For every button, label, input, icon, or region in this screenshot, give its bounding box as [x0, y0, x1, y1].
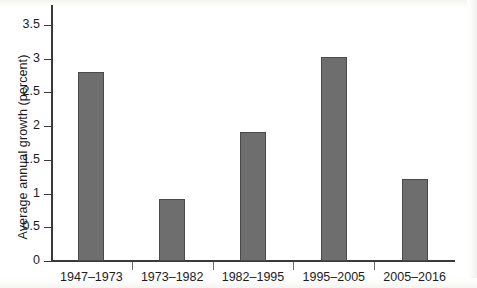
y-axis-tick [44, 92, 52, 93]
page-scan-edge-right [467, 0, 477, 288]
y-axis-tick [44, 261, 52, 262]
bar [321, 57, 347, 261]
x-axis-tick [132, 262, 133, 270]
bar [159, 199, 185, 261]
y-axis-tick [44, 25, 52, 26]
x-axis-tick [374, 262, 375, 270]
y-axis-tick-label: 1.5 [0, 152, 40, 166]
bar-chart-figure: Average annual growth (percent) 00.511.5… [0, 0, 477, 288]
y-axis-tick-label: 3 [0, 51, 40, 65]
y-axis-tick [44, 59, 52, 60]
x-axis-tick [213, 262, 214, 270]
x-axis-tick [293, 262, 294, 270]
bar [240, 132, 266, 261]
x-axis-category-label: 2005–2016 [365, 270, 465, 284]
page-scan-edge-top [0, 0, 477, 7]
y-axis-tick-label: 2.5 [0, 84, 40, 98]
y-axis-tick-label: 0.5 [0, 219, 40, 233]
y-axis-tick-label: 3.5 [0, 17, 40, 31]
y-axis-tick [44, 194, 52, 195]
y-axis-tick-label: 2 [0, 118, 40, 132]
y-axis-tick-label: 0 [0, 253, 40, 267]
bar [402, 179, 428, 261]
y-axis-tick-label: 1 [0, 186, 40, 200]
y-axis-tick [44, 227, 52, 228]
y-axis-tick [44, 160, 52, 161]
bar [78, 72, 104, 261]
y-axis-line [51, 5, 53, 262]
y-axis-tick [44, 126, 52, 127]
